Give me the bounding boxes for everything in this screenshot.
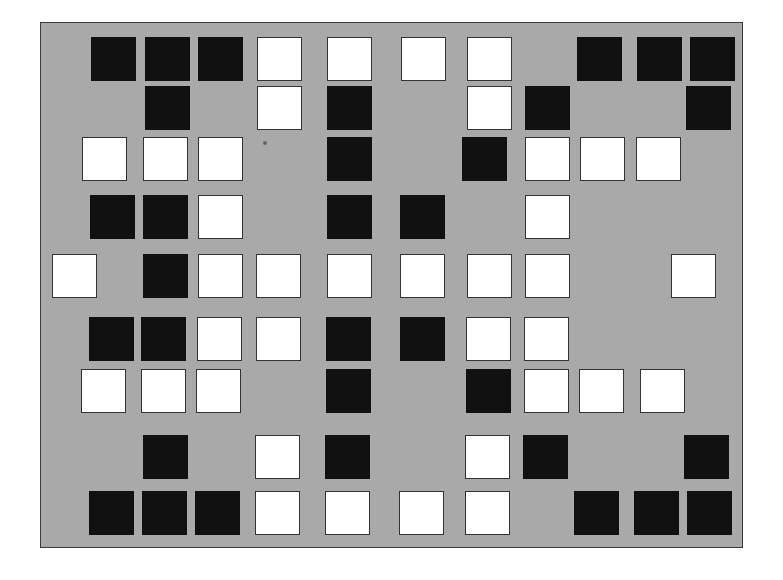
black-tile [198,37,243,81]
white-tile [524,317,569,361]
white-tile [636,137,681,181]
white-tile [198,137,243,181]
white-tile [255,491,300,535]
black-tile [326,317,371,361]
white-tile [399,491,444,535]
speck-mark [263,141,267,145]
black-tile [400,317,445,361]
white-tile [465,435,510,479]
white-tile [256,254,301,298]
white-tile [198,254,243,298]
black-tile [141,317,186,361]
white-tile [198,195,243,239]
white-tile [52,254,97,298]
black-tile [145,86,190,130]
black-tile [637,37,682,81]
black-tile [634,491,679,535]
black-tile [143,435,188,479]
black-tile [142,491,187,535]
white-tile [401,37,446,81]
black-tile [525,86,570,130]
black-tile [325,435,370,479]
white-tile [325,491,370,535]
white-tile [257,37,302,81]
black-tile [327,86,372,130]
black-tile [577,37,622,81]
white-tile [465,491,510,535]
white-tile [143,137,188,181]
black-tile [574,491,619,535]
white-tile [400,254,445,298]
black-tile [143,195,188,239]
white-tile [525,137,570,181]
white-tile [257,86,302,130]
white-tile [525,254,570,298]
black-tile [462,137,507,181]
black-tile [91,37,136,81]
black-tile [687,491,732,535]
white-tile [256,317,301,361]
white-tile [671,254,716,298]
black-tile [143,254,188,298]
white-tile [467,86,512,130]
black-tile [400,195,445,239]
black-tile [327,195,372,239]
white-tile [141,369,186,413]
white-tile [327,37,372,81]
black-tile [326,369,371,413]
black-tile [690,37,735,81]
white-tile [467,254,512,298]
black-tile [89,491,134,535]
white-tile [580,137,625,181]
black-tile [327,137,372,181]
black-tile [684,435,729,479]
white-tile [466,317,511,361]
black-tile [89,317,134,361]
black-tile [195,491,240,535]
white-tile [579,369,624,413]
black-tile [145,37,190,81]
white-tile [196,369,241,413]
white-tile [82,137,127,181]
white-tile [327,254,372,298]
white-tile [525,195,570,239]
white-tile [81,369,126,413]
black-tile [686,86,731,130]
white-tile [255,435,300,479]
white-tile [524,369,569,413]
white-tile [467,37,512,81]
black-tile [90,195,135,239]
white-tile [197,317,242,361]
black-tile [523,435,568,479]
tile-board [40,22,743,548]
white-tile [640,369,685,413]
black-tile [466,369,511,413]
